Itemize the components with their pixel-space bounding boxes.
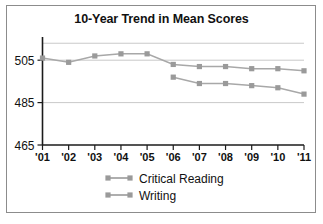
x-tick-label: '10 — [270, 151, 285, 163]
data-point-marker — [145, 51, 150, 56]
data-series — [40, 51, 307, 96]
x-tick-label: '01 — [35, 151, 50, 163]
y-tick-label: 505 — [14, 54, 34, 68]
data-point-marker — [171, 75, 176, 80]
data-point-marker — [275, 66, 280, 71]
x-tick-label: '03 — [87, 151, 102, 163]
data-point-marker — [301, 92, 306, 97]
legend-marker — [127, 192, 132, 197]
data-point-marker — [249, 66, 254, 71]
legend-label: Critical Reading — [139, 172, 224, 186]
x-tick-label: '04 — [114, 151, 130, 163]
series-line — [173, 77, 304, 94]
line-chart-plot: 465485505 '01'02'03'04'05'06'07'08'09'10… — [0, 0, 323, 224]
x-tick-label: '09 — [244, 151, 259, 163]
data-point-marker — [223, 81, 228, 86]
data-point-marker — [40, 55, 45, 60]
legend-label: Writing — [139, 189, 176, 203]
axes — [38, 37, 305, 145]
data-point-marker — [92, 53, 97, 58]
data-point-marker — [275, 85, 280, 90]
y-axis-tick-labels: 465485505 — [14, 54, 34, 153]
y-tick-label: 485 — [14, 96, 34, 110]
data-point-marker — [223, 64, 228, 69]
data-point-marker — [197, 64, 202, 69]
x-tick-label: '07 — [192, 151, 207, 163]
data-point-marker — [171, 62, 176, 67]
chart-figure: 10-Year Trend in Mean Scores 465485505 '… — [0, 0, 323, 224]
gridlines — [43, 43, 305, 102]
x-tick-label: '08 — [218, 151, 233, 163]
legend-marker — [127, 175, 132, 180]
x-tick-label: '06 — [166, 151, 181, 163]
data-point-marker — [118, 51, 123, 56]
data-point-marker — [197, 81, 202, 86]
data-point-marker — [249, 83, 254, 88]
x-tick-label: '02 — [61, 151, 76, 163]
x-axis-tick-labels: '01'02'03'04'05'06'07'08'09'10'11 — [35, 151, 311, 163]
legend-marker — [105, 175, 110, 180]
y-tick-label: 465 — [14, 139, 34, 153]
legend-marker — [105, 192, 110, 197]
chart-legend: Critical ReadingWriting — [105, 172, 223, 203]
data-point-marker — [66, 60, 71, 65]
x-tick-label: '05 — [140, 151, 155, 163]
x-tick-label: '11 — [297, 151, 311, 163]
data-point-marker — [301, 68, 306, 73]
